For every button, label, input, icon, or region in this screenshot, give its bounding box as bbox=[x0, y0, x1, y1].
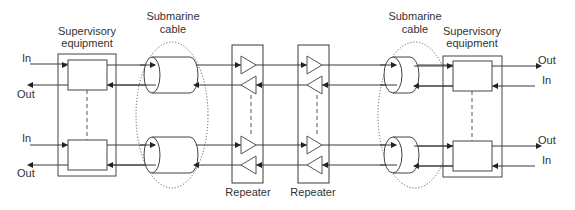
right-supervisory-bottom-unit bbox=[453, 141, 492, 171]
repeater-2-amp-bottom-rev bbox=[307, 156, 322, 174]
repeater-2-label: Repeater bbox=[290, 186, 336, 198]
repeater-1-amp-bottom-fwd bbox=[241, 136, 256, 154]
repeater-2-amp-top-rev bbox=[307, 76, 322, 94]
right-cable-cylinder-top bbox=[384, 57, 419, 93]
left-supervisory-top-unit bbox=[68, 60, 107, 90]
left-cable-label-line2: cable bbox=[160, 23, 186, 35]
left-supervisory-label-line1: Supervisory bbox=[58, 25, 117, 37]
repeater-2-amp-bottom-fwd bbox=[307, 136, 322, 154]
arrow-rep1-bottom-fwd bbox=[235, 142, 241, 148]
arrow-rep1-top-rev bbox=[256, 82, 262, 88]
left-supervisory-equipment bbox=[58, 54, 116, 176]
right-cable-bottom-face bbox=[384, 137, 402, 173]
right-cable-label-line2: cable bbox=[402, 23, 428, 35]
left-cable-cylinder-bottom bbox=[144, 137, 198, 173]
left-bottom-in-label: In bbox=[22, 132, 31, 144]
right-supervisory-equipment bbox=[443, 56, 502, 177]
submarine-system-diagram: Supervisory equipment Submarine cable Su… bbox=[0, 0, 575, 210]
left-cable-label: Submarine cable bbox=[146, 10, 199, 35]
left-cable-cylinder-top bbox=[144, 57, 198, 93]
left-supervisory-label-line2: equipment bbox=[61, 37, 112, 49]
right-supervisory-top-unit bbox=[453, 61, 492, 91]
left-supervisory-label: Supervisory equipment bbox=[58, 25, 117, 49]
right-top-out-label: Out bbox=[538, 54, 556, 66]
left-cable-label-line1: Submarine bbox=[146, 10, 199, 22]
arrow-rep1-top-fwd bbox=[235, 62, 241, 68]
arrow-rep2-top-rev bbox=[322, 82, 328, 88]
right-supervisory-label: Supervisory equipment bbox=[443, 25, 502, 49]
left-cable-top-face bbox=[144, 57, 160, 93]
right-supervisory-label-line1: Supervisory bbox=[443, 25, 502, 37]
arrow-rep2-bottom-fwd bbox=[301, 142, 307, 148]
repeater-1-amp-top-fwd bbox=[241, 56, 256, 74]
right-cable-label-line1: Submarine bbox=[388, 10, 441, 22]
repeater-2-amp-top-fwd bbox=[307, 56, 322, 74]
left-cable-bottom-face bbox=[144, 137, 160, 173]
right-bottom-out-label: Out bbox=[538, 134, 556, 146]
left-bottom-out-label: Out bbox=[17, 167, 35, 179]
left-top-in-label: In bbox=[22, 52, 31, 64]
left-supervisory-bottom-unit bbox=[68, 140, 107, 170]
right-cable-cylinder-bottom bbox=[384, 137, 419, 173]
arrow-rep1-bottom-rev bbox=[256, 162, 262, 168]
right-cable-top-face bbox=[384, 57, 402, 93]
right-top-in-label: In bbox=[542, 74, 551, 86]
repeater-1-amp-top-rev bbox=[241, 76, 256, 94]
arrow-rep2-bottom-rev bbox=[322, 162, 328, 168]
repeater-1-label: Repeater bbox=[225, 186, 271, 198]
right-bottom-in-label: In bbox=[542, 154, 551, 166]
right-cable-label: Submarine cable bbox=[388, 10, 441, 35]
right-supervisory-label-line2: equipment bbox=[446, 37, 497, 49]
arrow-rep2-top-fwd bbox=[301, 62, 307, 68]
left-top-out-label: Out bbox=[17, 88, 35, 100]
repeater-1-amp-bottom-rev bbox=[241, 156, 256, 174]
